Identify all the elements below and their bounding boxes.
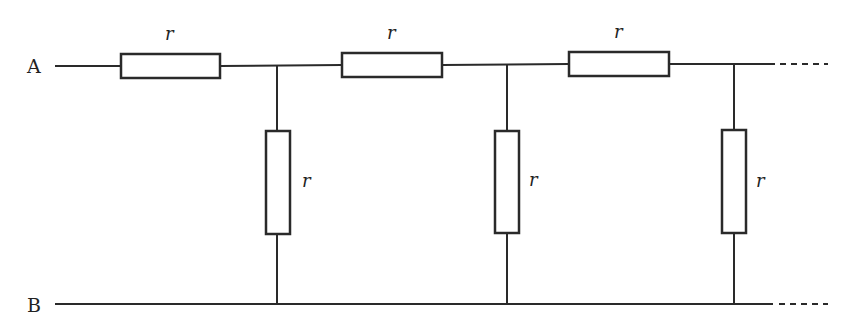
series-resistor-2 <box>342 53 442 77</box>
series-resistor-3 <box>569 52 669 76</box>
shunt-resistor-2 <box>495 131 519 233</box>
series-resistor-3-label: r <box>614 21 624 42</box>
resistor-ladder-diagram: A B r r r r r r <box>0 0 855 330</box>
shunt-resistor-3-label: r <box>756 170 766 191</box>
shunt-resistor-3 <box>722 130 746 233</box>
series-resistor-1-label: r <box>165 23 175 44</box>
series-resistor-1 <box>121 54 220 78</box>
series-resistor-2-label: r <box>387 22 397 43</box>
shunt-resistor-2-label: r <box>529 169 539 190</box>
terminal-a-label: A <box>26 55 41 77</box>
shunt-resistor-1 <box>266 131 290 234</box>
terminal-b-label: B <box>27 294 41 316</box>
shunt-resistor-1-label: r <box>302 170 312 191</box>
